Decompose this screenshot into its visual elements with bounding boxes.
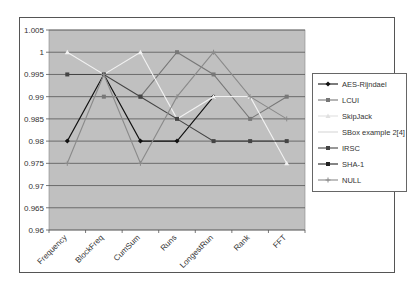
legend-label: IRSC — [342, 144, 360, 153]
legend-item-sha-1: SHA-1 — [317, 158, 364, 170]
legend-label: AES-Rijndael — [342, 80, 387, 89]
legend-label: SHA-1 — [342, 160, 364, 169]
legend-label: LCUI — [342, 96, 359, 105]
line-marker-icon — [317, 127, 339, 137]
y-tick-label: 1.005 — [24, 26, 45, 35]
y-tick-label: 0.975 — [24, 159, 45, 168]
x-tick-label: Frequency — [36, 233, 69, 266]
square-marker-icon — [317, 95, 339, 105]
x-tick-label: Runs — [159, 233, 179, 253]
x-tick-label: FFT — [271, 233, 288, 250]
y-tick-label: 0.995 — [24, 70, 45, 79]
legend-item-irsc: IRSC — [317, 142, 360, 154]
legend-label: NULL — [342, 176, 361, 185]
legend-item-skipjack: SkipJack — [317, 110, 372, 122]
legend-item-sbox-example: SBox example 2[4] — [317, 126, 405, 138]
x-tick-label: BlockFreq — [73, 233, 105, 265]
square-marker-icon — [317, 143, 339, 153]
y-tick-label: 1 — [40, 48, 45, 57]
triangle-marker-icon — [317, 111, 339, 121]
plot-area — [49, 30, 305, 230]
chart-legend: AES-Rijndael LCUI SkipJack SBox example … — [312, 73, 407, 192]
diamond-marker-icon — [317, 79, 339, 89]
legend-label: SBox example 2[4] — [342, 128, 405, 137]
legend-item-lcui: LCUI — [317, 94, 359, 106]
x-tick-label: Rank — [232, 232, 252, 252]
y-tick-label: 0.985 — [24, 115, 45, 124]
square-marker-icon — [317, 159, 339, 169]
legend-item-aes-rijndael: AES-Rijndael — [317, 78, 387, 90]
y-tick-label: 0.99 — [28, 93, 44, 102]
legend-item-null: NULL — [317, 174, 361, 186]
y-tick-label: 0.98 — [28, 137, 44, 146]
y-tick-label: 0.96 — [28, 226, 44, 235]
plus-marker-icon — [317, 175, 339, 185]
legend-label: SkipJack — [342, 112, 372, 121]
y-tick-label: 0.97 — [28, 182, 44, 191]
x-tick-label: CumSum — [112, 233, 142, 263]
y-tick-label: 0.965 — [24, 204, 45, 213]
x-tick-label: LongestRun — [178, 233, 215, 270]
